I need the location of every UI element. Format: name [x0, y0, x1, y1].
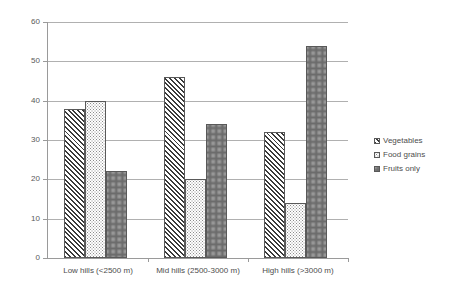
y-tick-label: 20 — [0, 175, 40, 183]
x-tick-mark — [248, 258, 249, 262]
bar — [285, 203, 306, 258]
plot-area — [48, 22, 348, 258]
legend: VegetablesFood grainsFruits only — [374, 134, 425, 176]
bar — [185, 179, 206, 258]
x-tick-mark — [148, 258, 149, 262]
legend-swatch-icon — [374, 138, 380, 144]
legend-item: Vegetables — [374, 134, 425, 148]
y-tick-label: 30 — [0, 136, 40, 144]
y-tick-label: 0 — [0, 254, 40, 262]
legend-swatch-icon — [374, 166, 380, 172]
legend-label: Fruits only — [383, 165, 420, 173]
legend-label: Food grains — [383, 151, 425, 159]
bar-chart: 0102030405060 Low hills (<2500 m)Mid hil… — [0, 0, 455, 295]
legend-swatch-icon — [374, 152, 380, 158]
legend-item: Fruits only — [374, 162, 425, 176]
bar — [264, 132, 285, 258]
bar — [164, 77, 185, 258]
bar — [64, 109, 85, 258]
x-tick-mark — [348, 258, 349, 262]
bar — [106, 171, 127, 258]
y-tick-label: 60 — [0, 18, 40, 26]
bar — [306, 46, 327, 258]
bar — [206, 124, 227, 258]
y-tick-label: 10 — [0, 215, 40, 223]
y-tick-mark — [43, 258, 48, 259]
bar — [85, 101, 106, 258]
y-tick-label: 40 — [0, 97, 40, 105]
legend-item: Food grains — [374, 148, 425, 162]
axis-baseline — [48, 258, 348, 259]
x-axis-category-label: High hills (>3000 m) — [228, 266, 368, 275]
y-tick-label: 50 — [0, 57, 40, 65]
legend-label: Vegetables — [383, 137, 423, 145]
